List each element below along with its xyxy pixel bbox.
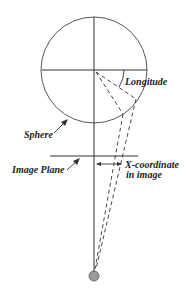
ray-2-outer bbox=[95, 114, 123, 269]
longitude-arc bbox=[119, 70, 124, 87]
x-coordinate-label-line2: in image bbox=[126, 169, 162, 180]
sphere-projection-diagram: Longitude Sphere Image Plane X-coordinat… bbox=[0, 0, 188, 290]
longitude-label: Longitude bbox=[124, 76, 168, 87]
ray-2-inner bbox=[96, 72, 123, 114]
viewpoint-dot bbox=[89, 271, 99, 281]
sphere-label: Sphere bbox=[24, 129, 53, 140]
image-plane-label: Image Plane bbox=[11, 164, 65, 175]
arrowhead-left bbox=[96, 162, 101, 166]
ray-1-outer bbox=[96, 99, 136, 269]
